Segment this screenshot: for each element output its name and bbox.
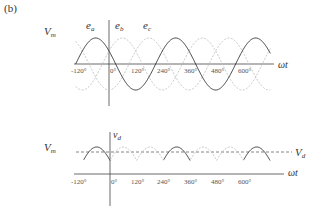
vd-axis-label: vd xyxy=(113,129,121,142)
tick-label: 600° xyxy=(238,178,252,186)
tick-label: -120° xyxy=(71,67,87,75)
tick-label: 240° xyxy=(157,67,171,75)
tick-label: 480° xyxy=(211,67,225,75)
bottom-xaxis-label: ωt xyxy=(288,167,298,178)
tick-label: 0° xyxy=(111,178,118,186)
rectified-envelope-ea xyxy=(84,147,270,161)
tick-label: 360° xyxy=(184,67,198,75)
tick-label: 480° xyxy=(211,178,225,186)
tick-label: 120° xyxy=(131,67,145,75)
top-plot: Vm ea eb ec ωt -120° 0° 120° 240° 360° 4… xyxy=(44,19,288,106)
bottom-vm-label: Vm xyxy=(44,141,56,155)
ec-label: ec xyxy=(143,19,152,33)
bottom-plot: Vm vd Vd ωt -120° 0° 120° 240° 360° 480°… xyxy=(44,129,306,206)
top-xaxis-label: ωt xyxy=(278,59,288,70)
tick-label: 360° xyxy=(184,178,198,186)
three-phase-rectifier-figure: Vm ea eb ec ωt -120° 0° 120° 240° 360° 4… xyxy=(0,0,317,206)
vd-line-label: Vd xyxy=(295,146,306,160)
tick-label: -120° xyxy=(71,178,87,186)
rectified-envelope-other-phases xyxy=(110,147,243,161)
tick-label: 0° xyxy=(110,67,117,75)
top-vm-label: Vm xyxy=(44,25,56,39)
tick-label: 120° xyxy=(131,178,145,186)
tick-label: 600° xyxy=(238,67,252,75)
eb-label: eb xyxy=(115,19,124,33)
ea-label: ea xyxy=(86,19,95,33)
tick-label: 240° xyxy=(157,178,171,186)
bottom-ticks: -120° 0° 120° 240° 360° 480° 600° xyxy=(71,178,252,186)
